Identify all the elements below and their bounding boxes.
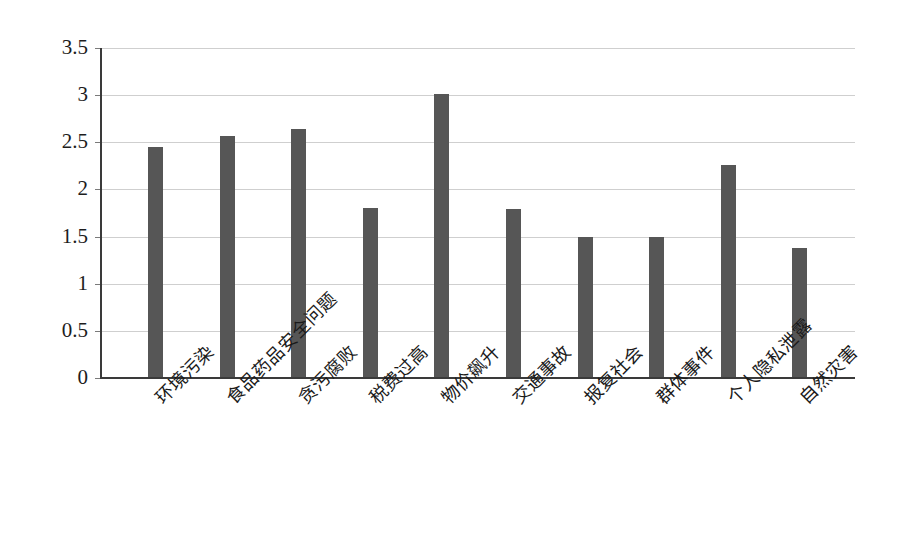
y-axis-tick-label: 0 — [78, 367, 89, 388]
bar[interactable] — [721, 165, 736, 377]
y-axis-line — [100, 48, 102, 378]
y-axis-tick-label: 1.5 — [62, 226, 88, 247]
gridline — [102, 48, 855, 49]
gridline — [102, 284, 855, 285]
y-axis-tick-label: 0.5 — [62, 320, 88, 341]
bar[interactable] — [363, 208, 378, 377]
gridline — [102, 331, 855, 332]
gridline — [102, 237, 855, 238]
chart-plot-area — [100, 48, 855, 378]
y-axis-tick-labels: 00.511.522.533.5 — [0, 48, 88, 378]
y-axis-tick-label: 3 — [78, 84, 89, 105]
bar[interactable] — [578, 237, 593, 377]
gridline — [102, 95, 855, 96]
y-axis-tick-label: 3.5 — [62, 37, 88, 58]
bar[interactable] — [148, 147, 163, 377]
bar[interactable] — [220, 136, 235, 377]
bar[interactable] — [506, 209, 521, 377]
y-axis-tick-label: 1 — [78, 273, 89, 294]
bar[interactable] — [434, 94, 449, 377]
bar[interactable] — [649, 237, 664, 377]
gridline — [102, 189, 855, 190]
y-axis-tick-label: 2 — [78, 178, 89, 199]
gridline — [102, 142, 855, 143]
chart-page: 00.511.522.533.5 环境污染食品药品安全问题贪污腐败税费过高物价飙… — [0, 0, 908, 552]
y-axis-tick-label: 2.5 — [62, 131, 88, 152]
